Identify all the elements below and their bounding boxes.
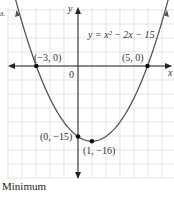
- caption-minimum: Minimum: [2, 180, 46, 192]
- point-label-1-neg16: (1, −16): [83, 146, 115, 156]
- origin-label: 0: [69, 70, 74, 80]
- equation-label: y = x² − 2x − 15: [88, 30, 155, 40]
- x-axis-left-arrow: [8, 63, 15, 69]
- x-axis-label: x: [168, 68, 172, 78]
- point-label-neg3-0: (−3, 0): [34, 53, 61, 63]
- key-point: [145, 64, 150, 69]
- point-label-0-neg15: (0, −15): [40, 132, 72, 142]
- key-point: [34, 64, 39, 69]
- point-label-5-0: (5, 0): [122, 53, 144, 63]
- key-point: [76, 134, 81, 139]
- y-axis-label: y: [68, 4, 72, 14]
- key-point: [90, 139, 95, 144]
- y-axis-up-arrow: [75, 7, 81, 14]
